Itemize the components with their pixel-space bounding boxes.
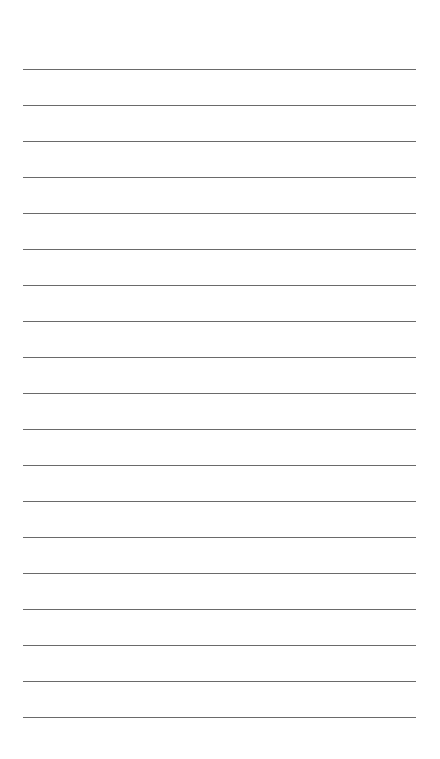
ruled-line [23, 501, 416, 502]
ruled-line [23, 357, 416, 358]
ruled-line [23, 717, 416, 718]
ruled-line [23, 249, 416, 250]
ruled-line [23, 393, 416, 394]
lined-paper-page [0, 0, 440, 759]
ruled-line [23, 285, 416, 286]
ruled-line [23, 573, 416, 574]
ruled-line [23, 609, 416, 610]
ruled-line [23, 429, 416, 430]
ruled-line [23, 681, 416, 682]
ruled-line [23, 105, 416, 106]
ruled-line [23, 321, 416, 322]
ruled-line [23, 645, 416, 646]
ruled-line [23, 177, 416, 178]
ruled-line [23, 141, 416, 142]
ruled-line [23, 465, 416, 466]
ruled-line [23, 537, 416, 538]
ruled-line [23, 213, 416, 214]
ruled-line [23, 69, 416, 70]
